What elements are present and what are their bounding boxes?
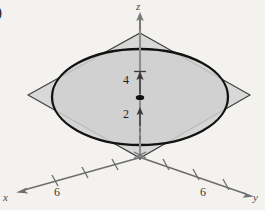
y-axis-label: y [253,192,258,203]
x-axis-label: x [3,192,8,203]
z-axis-label: z [136,1,140,12]
caption-fragment: ) [0,5,2,20]
x-axis-group [16,157,142,194]
figure-container: ) z x y 4 2 6 6 [0,0,265,210]
x-axis-ticks [52,159,118,186]
y-axis-tick-label: 6 [200,186,206,198]
center-point-marker [136,95,144,100]
y-axis-group [139,157,254,198]
measurement-label-upper: 4 [123,74,129,86]
measurement-label-lower: 2 [123,108,129,120]
y-axis-line [139,157,246,194]
x-axis-line [24,157,142,190]
diagram-canvas [0,0,265,210]
x-axis-tick-label: 6 [54,186,60,198]
